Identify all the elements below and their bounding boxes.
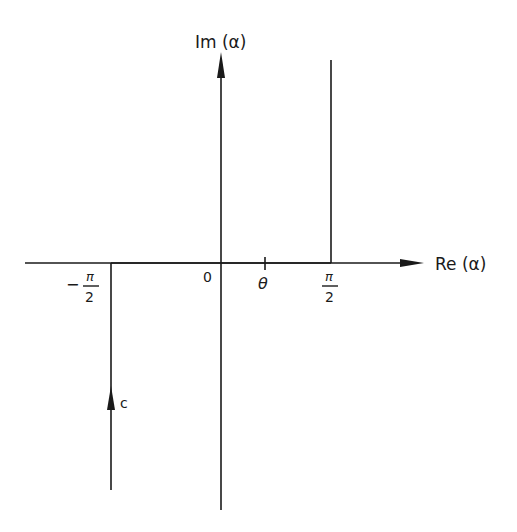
contour-diagram: Im (α) Re (α) 0 − π 2 θ π 2 c (0, 0, 517, 532)
pos-half-pi-label: π 2 (322, 269, 338, 305)
svg-text:−: − (66, 275, 79, 294)
svg-text:2: 2 (85, 289, 94, 305)
imaginary-axis-label: Im (α) (195, 32, 246, 52)
theta-label: θ (258, 274, 268, 293)
svg-text:π: π (86, 269, 94, 284)
imaginary-axis (217, 52, 225, 510)
imaginary-axis-arrowhead-icon (217, 52, 225, 78)
origin-label: 0 (203, 269, 212, 285)
neg-half-pi-label: − π 2 (66, 269, 99, 305)
contour-label: c (120, 395, 128, 411)
contour-direction-arrow-icon (107, 386, 115, 410)
real-axis-label: Re (α) (435, 254, 486, 274)
contour-c (107, 60, 331, 490)
svg-text:2: 2 (325, 289, 334, 305)
real-axis-arrowhead-icon (400, 259, 424, 267)
svg-text:π: π (325, 269, 333, 284)
